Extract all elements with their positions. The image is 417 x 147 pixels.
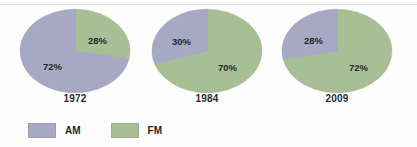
legend-swatch-fm xyxy=(111,123,139,138)
legend-label-am: AM xyxy=(65,125,81,136)
year-label-2009: 2009 xyxy=(272,93,402,104)
slice-label-fm-2009: 72% xyxy=(349,62,368,73)
pie-svg-1972 xyxy=(10,8,140,94)
year-label-1984: 1984 xyxy=(142,93,272,104)
slice-label-am-1984: 30% xyxy=(172,36,191,47)
year-label-1972: 1972 xyxy=(10,93,140,104)
pie-svg-2009 xyxy=(272,8,402,94)
pie-svg-1984 xyxy=(142,8,272,94)
chart-legend: AM FM xyxy=(28,121,192,139)
pie-chart-1972: 28% 72% 1972 xyxy=(10,8,140,118)
pie-chart-1984: 30% 70% 1984 xyxy=(142,8,272,118)
pie-chart-2009: 28% 72% 2009 xyxy=(272,8,402,118)
legend-item-am: AM xyxy=(28,123,81,138)
legend-swatch-am xyxy=(28,123,56,138)
legend-label-fm: FM xyxy=(148,125,162,136)
pie-chart-figure: 28% 72% 1972 30% 70% 1984 28% xyxy=(0,0,417,147)
slice-label-fm-1984: 70% xyxy=(218,62,237,73)
slice-label-am-2009: 28% xyxy=(304,35,323,46)
legend-item-fm: FM xyxy=(111,123,162,138)
slice-label-am-1972: 72% xyxy=(43,61,62,72)
pie-charts-row: 28% 72% 1972 30% 70% 1984 28% xyxy=(0,8,417,118)
top-divider xyxy=(0,4,417,5)
slice-label-fm-1972: 28% xyxy=(88,35,107,46)
